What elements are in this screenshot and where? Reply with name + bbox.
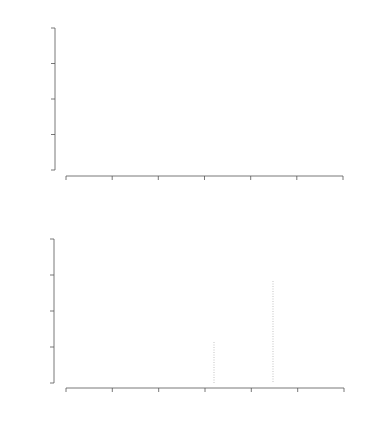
top-y-axis: [51, 28, 55, 170]
figure: [0, 0, 367, 444]
bottom-y-axis: [50, 239, 54, 383]
top-x-axis: [66, 176, 343, 180]
bottom-chart: [50, 239, 344, 392]
bottom-x-axis: [66, 388, 344, 392]
top-chart: [51, 28, 343, 180]
